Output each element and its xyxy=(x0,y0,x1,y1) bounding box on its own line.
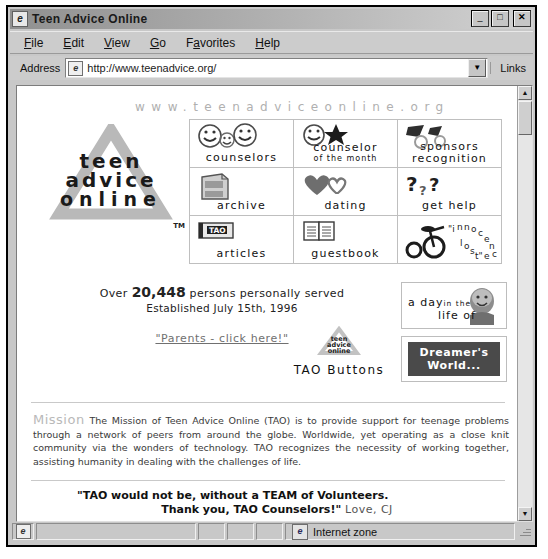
mission-heading: Mission xyxy=(33,412,85,427)
svg-text:?: ? xyxy=(419,183,427,198)
quote-line-2-wrap: Thank you, TAO Counselors!" Love, CJ xyxy=(77,503,477,517)
hearts-icon xyxy=(300,171,358,197)
status-segment-2 xyxy=(227,523,254,540)
tao-buttons-link[interactable]: teen advice online TAO Buttons xyxy=(279,326,399,377)
menu-label-rest: ile xyxy=(31,36,43,50)
resize-grip[interactable] xyxy=(517,524,533,540)
dreamer-line2: World... xyxy=(427,359,481,372)
svg-text:n: n xyxy=(464,222,470,232)
links-button[interactable]: Links xyxy=(490,62,533,74)
question-marks-icon: ? ? ? xyxy=(404,171,460,199)
nav-cell-sponsors-recognition[interactable]: sponsors recognition xyxy=(397,119,502,168)
nav-label-sub: of the month xyxy=(294,153,397,164)
svg-text:o: o xyxy=(471,224,477,234)
file-cabinet-icon xyxy=(196,171,240,201)
nav-label-counselors: counselors xyxy=(190,152,293,163)
dreamers-world-banner: Dreamer's World... xyxy=(408,342,500,376)
scroll-down-button[interactable]: ▼ xyxy=(518,507,532,521)
quote-line-1: "TAO would not be, without a TEAM of Vol… xyxy=(77,489,388,502)
chevron-down-icon[interactable]: ▼ xyxy=(468,59,486,77)
window-title: Teen Advice Online xyxy=(32,12,147,26)
dreamers-world-panel[interactable]: Dreamer's World... xyxy=(401,336,507,382)
svg-text:n: n xyxy=(457,222,463,232)
security-zone-cell: e Internet zone xyxy=(285,523,515,540)
address-input[interactable]: e http://www.teenadvice.org/ ▼ xyxy=(65,58,488,78)
tao-buttons-label: TAO Buttons xyxy=(279,363,399,377)
tao-logo[interactable]: teen advice online TM xyxy=(35,124,187,234)
nav-cell-counselor-of-the-month[interactable]: counselor of the month xyxy=(293,119,398,168)
close-button[interactable]: ✕ xyxy=(513,10,531,27)
window-controls: _ □ ✕ xyxy=(471,10,531,27)
status-icon-cell: e xyxy=(12,523,34,540)
minimize-button[interactable]: _ xyxy=(471,10,489,27)
tao-book-icon: TAO xyxy=(196,219,240,243)
svg-text:t": t" xyxy=(475,251,483,261)
menu-label-rest: vorites xyxy=(200,36,235,50)
divider-bottom xyxy=(31,480,505,481)
svg-text:?: ? xyxy=(406,172,418,196)
title-bar: e Teen Advice Online _ □ ✕ xyxy=(10,9,533,29)
address-url-text: http://www.teenadvice.org/ xyxy=(87,62,216,74)
menu-item-help[interactable]: Help xyxy=(255,36,280,50)
status-segment-3 xyxy=(256,523,283,540)
nav-row-1: counselors counselor of the month xyxy=(189,119,505,167)
status-segment-1 xyxy=(198,523,225,540)
quote-line-2: Thank you, TAO Counselors!" xyxy=(161,503,341,516)
nav-cell-innocence-lost[interactable]: "i n n o c e n c e l o s t" xyxy=(397,215,502,264)
nav-label-guestbook: guestbook xyxy=(294,248,397,259)
menu-label-rest: elp xyxy=(264,36,280,50)
menu-item-view[interactable]: View xyxy=(104,36,130,50)
a-day-text: a dayin the life of xyxy=(408,297,476,321)
nav-label-sub: recognition xyxy=(398,153,501,164)
svg-text:e: e xyxy=(484,251,490,261)
menu-item-file[interactable]: File xyxy=(24,36,43,50)
counter-line: Over 20,448 persons personally served xyxy=(97,284,347,300)
menu-item-go[interactable]: Go xyxy=(150,36,166,50)
nav-cell-articles[interactable]: TAO articles xyxy=(189,215,294,264)
ie-status-icon: e xyxy=(16,524,31,539)
nav-cell-counselors[interactable]: counselors xyxy=(189,119,294,168)
nav-cell-archive[interactable]: archive xyxy=(189,167,294,216)
nav-cell-dating[interactable]: dating xyxy=(293,167,398,216)
menu-label-rest: o xyxy=(159,36,166,50)
menu-item-edit[interactable]: Edit xyxy=(63,36,84,50)
menu-accel: G xyxy=(150,36,159,50)
a-day-in-the-life-panel[interactable]: a dayin the life of xyxy=(401,282,507,329)
security-zone-label: Internet zone xyxy=(313,526,377,538)
scrollbar-thumb[interactable] xyxy=(518,101,532,135)
mini-triangle-logo-icon: teen advice online xyxy=(312,326,366,358)
tricycle-icon: "i n n o c e n c e l o s t" xyxy=(404,219,500,261)
scroll-up-button[interactable]: ▲ xyxy=(518,86,532,100)
vertical-scrollbar[interactable]: ▲ ▼ xyxy=(517,86,532,521)
open-book-icon xyxy=(300,219,344,245)
a-day-line1: a day xyxy=(408,296,443,309)
nav-label-counselor-of-the-month: counselor of the month xyxy=(294,142,397,164)
smiley-faces-icon xyxy=(196,123,266,149)
nav-row-2: archive dating ? ? ? xyxy=(189,167,505,215)
nav-label-dating: dating xyxy=(294,200,397,211)
svg-text:c: c xyxy=(478,228,483,238)
svg-text:"i: "i xyxy=(448,224,455,234)
nav-cell-guestbook[interactable]: guestbook xyxy=(293,215,398,264)
trademark-mark: TM xyxy=(173,222,185,230)
address-bar: Address e http://www.teenadvice.org/ ▼ L… xyxy=(10,56,533,80)
menu-accel: a xyxy=(193,36,200,50)
site-url-header: www.teenadviceonline.org xyxy=(135,100,505,114)
ie-globe-icon: e xyxy=(292,524,308,540)
menu-accel: V xyxy=(104,36,112,50)
svg-text:online: online xyxy=(328,347,351,355)
counter-prefix: Over xyxy=(100,287,128,300)
a-day-line3: life of xyxy=(438,310,476,321)
nav-label-get-help: get help xyxy=(398,200,501,211)
mission-body: The Mission of Teen Advice Online (TAO) … xyxy=(33,415,509,467)
status-bar: e e Internet zone xyxy=(12,522,533,541)
menu-label-rest: iew xyxy=(112,36,130,50)
dreamer-line1: Dreamer's xyxy=(419,346,488,359)
maximize-button[interactable]: □ xyxy=(491,10,509,27)
logo-line-3: online xyxy=(35,190,187,209)
menu-item-favorites[interactable]: Favorites xyxy=(186,36,235,50)
browser-window: e Teen Advice Online _ □ ✕ File Edit Vie… xyxy=(6,5,537,547)
svg-text:?: ? xyxy=(429,174,439,195)
nav-cell-get-help[interactable]: ? ? ? get help xyxy=(397,167,502,216)
navigation-grid: counselors counselor of the month xyxy=(189,119,505,263)
